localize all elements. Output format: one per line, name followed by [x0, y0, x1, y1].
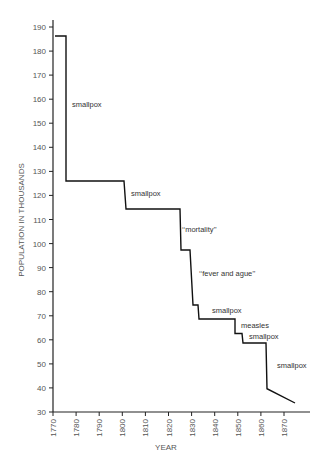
x-tick-label: 1840	[211, 418, 220, 436]
y-tick-label: 70	[37, 312, 46, 321]
x-tick-label: 1810	[141, 418, 150, 436]
y-tick-label: 120	[33, 191, 47, 200]
y-tick-label: 160	[33, 95, 47, 104]
x-axis-title: YEAR	[155, 443, 177, 452]
x-tick-label: 1870	[280, 418, 289, 436]
y-tick-label: 90	[37, 264, 46, 273]
annotation-measles: measles	[241, 321, 269, 330]
annotation-smallpox-1863: smallpox	[277, 361, 307, 370]
axes	[53, 20, 310, 412]
x-tick-label: 1830	[188, 418, 197, 436]
y-axis-title: POPULATION IN THOUSANDS	[17, 163, 26, 277]
x-tick-label: 1860	[257, 418, 266, 436]
annotations: smallpox smallpox ‘‘mortality’’ ‘‘fever …	[72, 100, 307, 370]
y-tick-labels: 190 180 170 160 150 140 130 120 110 100 …	[33, 23, 47, 417]
x-tick-label: 1820	[165, 418, 174, 436]
y-tick-label: 80	[37, 288, 46, 297]
y-tick-label: 60	[37, 336, 46, 345]
annotation-fever-and-ague: ‘‘fever and ague’’	[199, 269, 256, 278]
annotation-smallpox-1834: smallpox	[212, 306, 242, 315]
annotation-smallpox-1800: smallpox	[131, 189, 161, 198]
y-tick-label: 100	[33, 240, 47, 249]
y-tick-label: 140	[33, 143, 47, 152]
population-chart: 190 180 170 160 150 140 130 120 110 100 …	[0, 0, 326, 465]
x-tick-label: 1780	[72, 418, 81, 436]
y-tick-label: 130	[33, 167, 47, 176]
y-tick-label: 180	[33, 47, 47, 56]
y-tick-label: 150	[33, 119, 47, 128]
annotation-smallpox-1852: smallpox	[249, 332, 279, 341]
y-tick-label: 30	[37, 408, 46, 417]
x-tick-label: 1770	[49, 418, 58, 436]
y-tick-label: 50	[37, 360, 46, 369]
x-tick-label: 1850	[234, 418, 243, 436]
y-tick-label: 170	[33, 71, 47, 80]
population-line	[55, 36, 295, 403]
x-tick-label: 1800	[118, 418, 127, 436]
annotation-smallpox-1775: smallpox	[72, 100, 102, 109]
y-tick-label: 110	[33, 216, 46, 225]
y-tick-label: 40	[37, 384, 46, 393]
x-tick-labels: 1770 1780 1790 1800 1810 1820 1830 1840 …	[49, 418, 289, 436]
x-tick-label: 1790	[95, 418, 104, 436]
y-tick-label: 190	[33, 23, 47, 32]
annotation-mortality: ‘‘mortality’’	[182, 225, 217, 234]
